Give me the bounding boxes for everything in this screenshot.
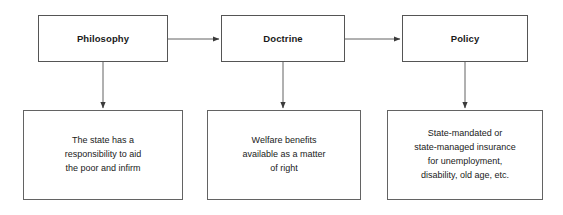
node-doctrine-label: Doctrine bbox=[263, 33, 302, 44]
node-philosophy-description: The state has a responsibility to aid th… bbox=[23, 110, 183, 200]
node-doctrine: Doctrine bbox=[221, 15, 345, 62]
node-doctrine-description-text: Welfare benefits available as a matter o… bbox=[236, 134, 331, 176]
node-policy-description: State-mandated or state-managed insuranc… bbox=[387, 110, 543, 200]
node-philosophy: Philosophy bbox=[38, 15, 168, 62]
node-philosophy-description-text: The state has a responsibility to aid th… bbox=[59, 134, 148, 176]
node-policy-label: Policy bbox=[451, 33, 480, 44]
node-policy: Policy bbox=[402, 15, 528, 62]
node-policy-description-text: State-mandated or state-managed insuranc… bbox=[408, 127, 522, 183]
node-philosophy-label: Philosophy bbox=[77, 33, 129, 44]
node-doctrine-description: Welfare benefits available as a matter o… bbox=[207, 110, 361, 200]
flowchart-diagram: Philosophy The state has a responsibilit… bbox=[0, 0, 563, 215]
